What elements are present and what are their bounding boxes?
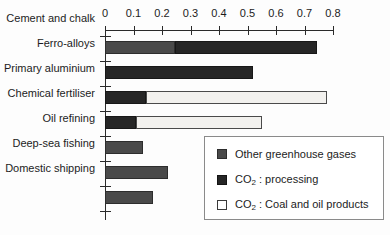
legend-swatch-other-icon [217,149,227,159]
legend-item-other-greenhouse-gases: Other greenhouse gases [217,148,356,160]
x-tick-0.5 [248,26,249,35]
x-tick-label-0.1: 0.1 [126,8,141,19]
bar-segment-processing [175,41,318,54]
bar-segment-other [105,141,143,154]
x-tick-label-0.7: 0.7 [297,8,312,19]
y-tick-7 [100,211,111,212]
y-tick-1 [100,61,111,62]
y-tick-5 [100,161,111,162]
bar-segment-coal [136,116,261,129]
legend-label-coal: CO2 : Coal and oil products [235,198,368,212]
legend-item-co2-coal-and-oil-products: CO2 : Coal and oil products [217,198,368,212]
x-tick-0.7 [305,26,306,35]
legend-label-processing: CO2 : processing [235,173,318,187]
legend-swatch-processing-icon [217,175,227,185]
legend-swatch-coal-icon [217,200,227,210]
category-label-ferro-alloys: Ferro-alloys [37,37,95,50]
bar-segment-processing [105,116,136,129]
bar-segment-other [105,191,153,204]
x-tick-label-0.5: 0.5 [240,8,255,19]
x-tick-0.4 [219,26,220,35]
y-tick-0 [100,36,111,37]
category-label-chemical-fertiliser: Chemical fertiliser [8,87,95,100]
stacked-bar-chart: Cement and chalk Ferro-alloys Primary al… [0,0,390,235]
bar-segment-other [105,41,175,54]
category-axis-labels: Cement and chalk Ferro-alloys Primary al… [0,0,101,190]
category-label-domestic-shipping: Domestic shipping [5,162,95,175]
category-label-cement: Cement and chalk [6,12,95,25]
y-tick-3 [100,111,111,112]
category-label-oil-refining: Oil refining [42,112,95,125]
legend-label-other: Other greenhouse gases [235,148,356,160]
x-tick-0.3 [191,26,192,35]
x-tick-0.6 [276,26,277,35]
y-tick-4 [100,136,111,137]
x-tick-label-0.6: 0.6 [268,8,283,19]
bar-segment-processing [105,91,146,104]
x-tick-label-0.2: 0.2 [154,8,169,19]
x-tick-label-0: 0 [102,8,108,19]
bar-segment-coal [146,91,327,104]
bar-segment-processing [105,66,253,79]
y-tick-2 [100,86,111,87]
x-tick-0.8 [333,26,334,35]
bar-segment-other [105,166,168,179]
category-label-deep-sea-fishing: Deep-sea fishing [12,137,95,150]
x-tick-label-0.8: 0.8 [325,8,340,19]
x-tick-0.2 [162,26,163,35]
x-tick-label-0.4: 0.4 [211,8,226,19]
y-tick-6 [100,186,111,187]
legend-item-co2-processing: CO2 : processing [217,173,318,187]
legend: Other greenhouse gases CO2 : processing … [204,136,384,220]
x-tick-label-0.3: 0.3 [183,8,198,19]
x-tick-0.1 [134,26,135,35]
category-label-primary-aluminium: Primary aluminium [4,62,95,75]
